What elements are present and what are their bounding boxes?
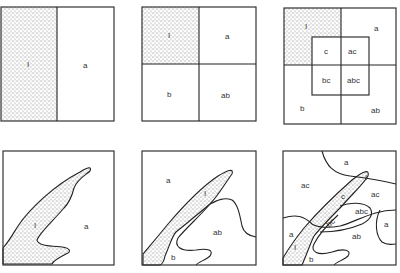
label-a: a (84, 222, 89, 231)
label-ab: ab (221, 91, 230, 100)
label-a: a (289, 230, 294, 239)
label-I: I (27, 60, 29, 69)
label-b: b (171, 253, 176, 262)
label-b: b (309, 255, 314, 264)
label-a: a (225, 32, 230, 41)
label-c: c (324, 47, 328, 56)
label-abc: abc (347, 76, 360, 85)
label-a: a (344, 158, 349, 167)
label-abc: abc (355, 207, 368, 216)
panel-top-2: I a b ab (142, 7, 256, 121)
overlay-diagram: I a I a b ab I a c ac bc abc b ab I a (0, 0, 400, 273)
label-a: a (384, 220, 389, 229)
label-I: I (204, 189, 206, 198)
label-ab: ab (352, 232, 361, 241)
label-a: a (374, 24, 379, 33)
label-b: b (167, 90, 172, 99)
label-b: b (300, 104, 305, 113)
label-bc: bc (322, 76, 330, 85)
label-ac: ac (301, 181, 309, 190)
label-I: I (294, 243, 296, 252)
label-ab: ab (213, 228, 222, 237)
label-I: I (365, 173, 367, 182)
label-ac: ac (371, 190, 379, 199)
label-I: I (305, 22, 307, 31)
label-ab: ab (371, 106, 380, 115)
panel-top-3: I a c ac bc abc b ab (284, 8, 396, 124)
panel-bottom-1: I a (3, 151, 114, 265)
panel-top-1: I a (1, 7, 114, 121)
panel-bottom-2: a I ab b (142, 151, 256, 265)
label-I: I (34, 221, 36, 230)
label-ac: ac (348, 47, 356, 56)
label-a: a (83, 61, 88, 70)
label-c: c (341, 192, 345, 201)
panel-bottom-3: a I ac c ac abc a bc a ab I b (283, 150, 396, 265)
label-I: I (168, 31, 170, 40)
label-a: a (166, 176, 171, 185)
